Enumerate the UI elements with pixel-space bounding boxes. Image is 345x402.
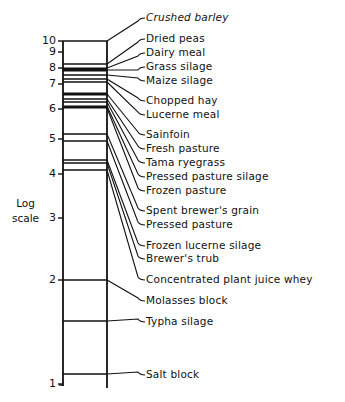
feed-label: Maize silage (146, 75, 213, 86)
feed-label: Fresh pasture (146, 143, 220, 154)
feed-label: Pressed pasture silage (146, 171, 269, 182)
feed-label: Grass silage (146, 61, 212, 72)
feed-label: Salt block (146, 369, 199, 380)
tick-label: 7 (42, 78, 56, 89)
tick-label: 6 (42, 103, 56, 114)
feed-label: Brewer's trub (146, 253, 219, 264)
leader-line (107, 134, 145, 211)
leader-line (107, 67, 145, 70)
tick-label: 1 (42, 378, 56, 389)
feed-label: Spent brewer's grain (146, 205, 259, 216)
axis-title-line2: scale (12, 211, 39, 226)
leader-lines (107, 18, 145, 375)
feed-label: Lucerne meal (146, 109, 220, 120)
tick-label: 2 (42, 274, 56, 285)
bar-value-lines (63, 41, 107, 374)
tick-label: 5 (42, 133, 56, 144)
feed-label: Frozen pasture (146, 185, 226, 196)
leader-line (107, 82, 145, 115)
tick-label: 3 (42, 212, 56, 223)
feed-label: Molasses block (146, 295, 228, 306)
leader-line (107, 319, 145, 322)
feed-label: Typha silage (146, 316, 213, 327)
leader-line (107, 372, 145, 375)
leader-line (107, 160, 145, 246)
feed-label: Chopped hay (146, 95, 218, 106)
axis-title-line1: Log (12, 196, 39, 211)
leader-line (107, 79, 145, 101)
leader-line (107, 102, 145, 163)
leader-line (107, 18, 145, 41)
feed-label: Crushed barley (146, 12, 229, 23)
tick-label: 9 (42, 46, 56, 57)
leader-line (107, 170, 145, 280)
leader-line (107, 75, 145, 81)
feed-label: Frozen lucerne silage (146, 240, 261, 251)
tick-label: 4 (42, 168, 56, 179)
feed-label: Concentrated plant juice whey (146, 274, 313, 285)
feed-label: Sainfoin (146, 129, 190, 140)
leader-line (107, 280, 145, 301)
feed-label: Dried peas (146, 33, 205, 44)
feed-label: Tama ryegrass (146, 157, 225, 168)
feed-label: Pressed pasture (146, 219, 233, 230)
feed-label: Dairy meal (146, 47, 205, 58)
axis-title: Log scale (12, 196, 39, 226)
tick-label: 8 (42, 62, 56, 73)
